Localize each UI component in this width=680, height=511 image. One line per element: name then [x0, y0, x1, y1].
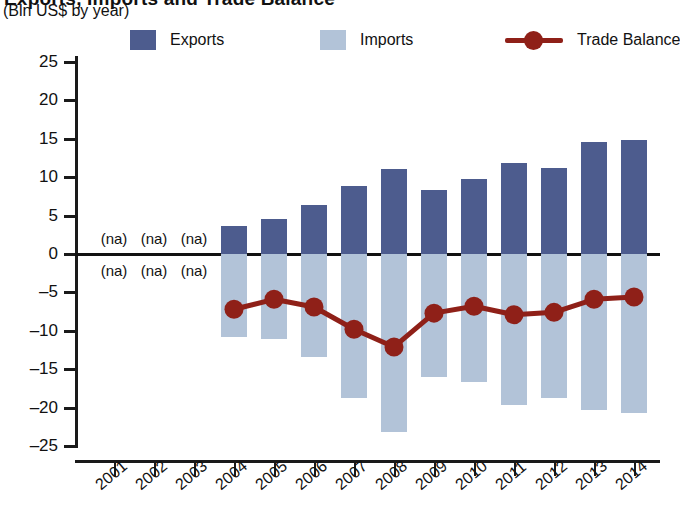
y-tick-mark: –20	[64, 407, 75, 410]
y-tick-mark: 10	[64, 176, 75, 179]
legend-item-imports[interactable]: Imports	[320, 28, 413, 52]
trade-balance-line	[75, 56, 660, 448]
x-tick-label: 2011	[492, 458, 530, 494]
y-tick-label: –10	[30, 321, 58, 341]
y-tick-mark: 0	[64, 253, 75, 256]
trade-balance-point-2008	[385, 337, 404, 356]
legend-label: Imports	[360, 31, 413, 49]
y-tick-mark: 20	[64, 99, 75, 102]
legend-label: Trade Balance	[577, 31, 680, 49]
y-tick-label: 10	[39, 167, 58, 187]
y-tick-label: –20	[30, 398, 58, 418]
trade-balance-point-2012	[545, 303, 564, 322]
trade-balance-point-2013	[585, 290, 604, 309]
y-tick-label: 0	[49, 244, 58, 264]
trade-balance-point-2007	[345, 320, 364, 339]
trade-balance-point-2014	[625, 288, 644, 307]
y-tick-mark: –25	[64, 445, 75, 448]
trade-balance-point-2004	[225, 300, 244, 319]
y-tick-mark: 15	[64, 138, 75, 141]
y-tick-mark: –15	[64, 368, 75, 371]
y-tick-label: 15	[39, 129, 58, 149]
y-tick-label: –15	[30, 359, 58, 379]
y-tick-mark: –10	[64, 330, 75, 333]
y-tick-label: 20	[39, 90, 58, 110]
y-tick-mark: 25	[64, 61, 75, 64]
plot-area: 2520151050–5–10–15–20–25 (na)(na)(na)(na…	[75, 56, 660, 448]
legend-swatch-icon	[320, 30, 346, 50]
legend-line-marker-icon	[505, 30, 563, 50]
y-tick-label: 25	[39, 52, 58, 72]
trade-balance-point-2011	[505, 305, 524, 324]
legend-swatch-icon	[130, 30, 156, 50]
y-tick-mark: –5	[64, 291, 75, 294]
y-tick-mark: 5	[64, 215, 75, 218]
trade-balance-point-2009	[425, 304, 444, 323]
y-tick-label: –25	[30, 436, 58, 456]
trade-balance-point-2010	[465, 297, 484, 316]
chart-subtitle: (Bln US$ by year)	[3, 2, 129, 20]
legend-item-exports[interactable]: Exports	[130, 28, 224, 52]
y-tick-label: –5	[39, 282, 58, 302]
trade-balance-point-2006	[305, 297, 324, 316]
legend-label: Exports	[170, 31, 224, 49]
legend-item-trade-balance[interactable]: Trade Balance	[505, 28, 680, 52]
trade-balance-point-2005	[265, 290, 284, 309]
y-tick-label: 5	[49, 206, 58, 226]
